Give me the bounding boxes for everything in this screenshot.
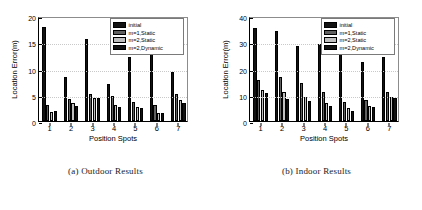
legend-swatch-icon — [113, 45, 126, 51]
gridline — [250, 97, 398, 98]
legend-outdoor: initialm=1,Staticm=2,Staticm=2,Dynamic — [110, 18, 184, 55]
bar — [318, 44, 321, 121]
bar — [393, 98, 396, 121]
y-tick-mark — [250, 71, 253, 72]
legend-swatch-icon — [324, 37, 337, 43]
legend-item: m=2,Static — [324, 37, 391, 44]
x-tick-label: 5 — [344, 121, 348, 133]
y-tick-mark — [250, 44, 253, 45]
y-tick-mark — [250, 97, 253, 98]
y-tick-label: 20 — [239, 67, 247, 74]
bar — [64, 77, 67, 121]
bar — [150, 52, 153, 121]
legend-swatch-icon — [113, 37, 126, 43]
y-tick-label: 10 — [28, 67, 36, 74]
bar — [114, 105, 117, 121]
y-tick-label: 5 — [32, 93, 36, 100]
bar — [390, 97, 393, 121]
bar — [140, 108, 143, 121]
x-tick-label: 5 — [133, 121, 137, 133]
bar — [368, 106, 371, 121]
bar — [364, 100, 367, 121]
legend-swatch-icon — [324, 45, 337, 51]
bar — [54, 111, 57, 121]
bar — [372, 107, 375, 121]
caption-outdoor: (a) Outdoor Results — [0, 166, 211, 176]
x-axis-label-outdoor: Position Spots — [38, 134, 188, 143]
x-tick-label: 7 — [176, 121, 180, 133]
bar — [308, 101, 311, 121]
y-tick-mark — [39, 97, 42, 98]
bar — [71, 103, 74, 121]
legend-item: m=1,Static — [113, 29, 180, 36]
bar — [286, 99, 289, 121]
x-tick-label: 4 — [323, 121, 327, 133]
bar — [257, 80, 260, 121]
bar — [304, 97, 307, 121]
gridline — [39, 97, 187, 98]
bar — [347, 108, 350, 121]
y-tick-mark — [39, 44, 42, 45]
legend-swatch-icon — [324, 30, 337, 36]
x-tick-label: 1 — [259, 121, 263, 133]
bar — [182, 103, 185, 121]
bar — [97, 98, 100, 121]
y-tick-label: 0 — [32, 120, 36, 127]
bar — [253, 28, 256, 121]
bar — [279, 77, 282, 121]
x-tick-label: 2 — [280, 121, 284, 133]
bar — [93, 98, 96, 121]
bar — [296, 46, 299, 121]
x-tick-label: 4 — [112, 121, 116, 133]
legend-label: m=2,Dynamic — [129, 45, 163, 51]
bar — [261, 90, 264, 122]
y-tick-mark — [39, 71, 42, 72]
legend-item: initial — [113, 22, 180, 29]
gridline — [39, 71, 187, 72]
bar — [157, 113, 160, 121]
x-tick-label: 6 — [155, 121, 159, 133]
y-tick-label: 15 — [28, 41, 36, 48]
y-tick-label: 0 — [243, 120, 247, 127]
y-tick-mark — [250, 18, 253, 19]
figure-container: Location Error(m) 051015201234567 Positi… — [0, 0, 422, 210]
chart-indoor: Location Error(m) 0102030401234567 Posit… — [211, 0, 422, 160]
caption-indoor: (b) Indoor Results — [211, 166, 422, 176]
legend-item: m=1,Static — [324, 29, 391, 36]
y-axis-label-indoor: Location Error(m) — [219, 17, 231, 122]
bar — [161, 113, 164, 121]
bar — [343, 102, 346, 121]
bar — [351, 111, 354, 121]
x-tick-label: 3 — [301, 121, 305, 133]
x-tick-label: 3 — [90, 121, 94, 133]
bar — [111, 96, 114, 121]
bar — [175, 94, 178, 121]
legend-label: m=1,Static — [340, 30, 367, 36]
bar — [128, 57, 131, 121]
bar — [107, 84, 110, 121]
legend-item: initial — [324, 22, 391, 29]
subfigure-outdoor: Location Error(m) 051015201234567 Positi… — [0, 0, 211, 210]
y-axis-label-outdoor: Location Error(m) — [8, 17, 20, 122]
legend-label: m=2,Static — [340, 37, 367, 43]
bar — [325, 103, 328, 121]
y-tick-mark — [39, 18, 42, 19]
x-tick-label: 6 — [366, 121, 370, 133]
legend-label: m=2,Dynamic — [340, 45, 374, 51]
y-tick-label: 10 — [239, 93, 247, 100]
legend-label: m=2,Static — [129, 37, 156, 43]
legend-label: initial — [340, 22, 353, 28]
legend-item: m=2,Dynamic — [113, 44, 180, 51]
y-tick-mark — [250, 123, 253, 124]
bar — [42, 27, 45, 121]
bar — [75, 106, 78, 121]
legend-label: m=1,Static — [129, 30, 156, 36]
bar — [300, 83, 303, 121]
bar — [46, 105, 49, 121]
y-tick-mark — [39, 123, 42, 124]
bar — [89, 94, 92, 121]
bar — [50, 112, 53, 121]
legend-item: m=2,Dynamic — [324, 44, 391, 51]
legend-swatch-icon — [324, 22, 337, 28]
bar — [329, 106, 332, 121]
